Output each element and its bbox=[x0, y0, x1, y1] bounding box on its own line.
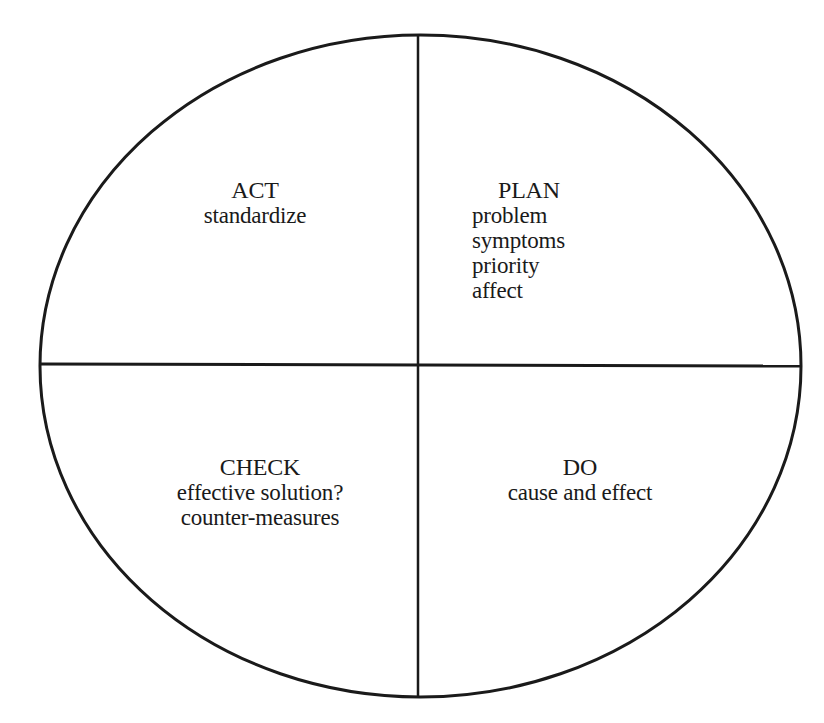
check-title: CHECK bbox=[150, 455, 370, 480]
quadrant-do: DO cause and effect bbox=[460, 455, 700, 505]
do-item: cause and effect bbox=[460, 480, 700, 505]
plan-item: problem bbox=[472, 203, 672, 228]
plan-item: priority bbox=[472, 253, 672, 278]
horizontal-divider bbox=[40, 364, 801, 366]
plan-item: affect bbox=[472, 278, 672, 303]
do-title: DO bbox=[460, 455, 700, 480]
pdca-diagram-frame bbox=[0, 0, 824, 723]
act-title: ACT bbox=[150, 178, 360, 203]
check-item: effective solution? bbox=[150, 480, 370, 505]
check-item: counter-measures bbox=[150, 505, 370, 530]
quadrant-check: CHECK effective solution? counter-measur… bbox=[150, 455, 370, 530]
plan-item: symptoms bbox=[472, 228, 672, 253]
quadrant-plan: PLAN problem symptoms priority affect bbox=[472, 178, 672, 303]
quadrant-act: ACT standardize bbox=[150, 178, 360, 228]
plan-title: PLAN bbox=[472, 178, 672, 203]
act-item: standardize bbox=[150, 203, 360, 228]
